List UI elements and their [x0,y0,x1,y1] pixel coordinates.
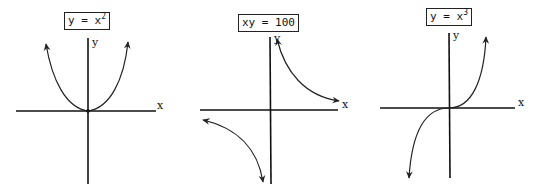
x-axis-label: x [157,100,163,111]
title-base: y = x [430,10,463,23]
graph-title-parabola: y = x2 [64,12,110,30]
y-axis [449,33,450,178]
y-axis-label: y [274,33,280,44]
hyperbola-branch-lower [203,120,263,182]
origin-point [86,109,90,113]
title-base: y = x [68,14,101,27]
graph-parabola [16,38,156,184]
y-axis [270,37,271,184]
title-exponent: 3 [463,8,468,17]
x-axis-label: x [342,99,348,110]
graph-cubic [380,33,515,178]
graph-title-hyperbola: xy = 100 [238,14,299,32]
graph-title-cubic: y = x3 [426,8,472,26]
hyperbola-branch-upper [277,39,339,101]
y-axis-label: y [92,37,98,48]
title-exponent: 2 [101,12,106,21]
y-axis-label: y [453,30,459,41]
graph-hyperbola [200,37,339,184]
title-base: xy = 100 [242,16,295,29]
parabola-curve [46,42,128,111]
x-axis-label: x [518,97,524,108]
